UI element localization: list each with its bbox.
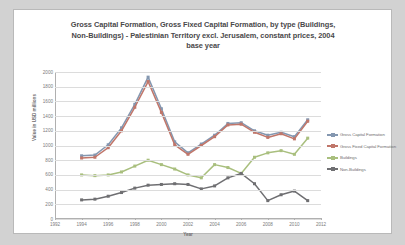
legend-item: Gross Fixed Capital Formation — [327, 141, 397, 153]
x-tick-label: 2004 — [202, 222, 228, 227]
series-marker — [226, 176, 229, 179]
legend-label: Gross Capital Formation — [340, 132, 385, 137]
x-tick-mark — [241, 218, 242, 220]
y-tick-label: 800 — [31, 158, 53, 163]
series-marker — [187, 183, 190, 186]
series-marker — [107, 195, 110, 198]
series-marker — [147, 184, 150, 187]
x-tick-mark — [321, 218, 322, 220]
chart-title: Gross Capital Formation, Gross Fixed Cap… — [38, 20, 368, 52]
series-marker — [187, 153, 190, 156]
chart-legend: Gross Capital FormationGross Fixed Capit… — [327, 129, 397, 175]
x-tick-mark — [294, 218, 295, 220]
x-tick-label: 2000 — [148, 222, 174, 227]
legend-swatch — [327, 157, 338, 159]
series-marker — [80, 198, 83, 201]
series-marker — [120, 170, 123, 173]
legend-item: Buildings — [327, 152, 397, 164]
legend-label: Gross Fixed Capital Formation — [340, 144, 396, 149]
y-tick-label: 2000 — [31, 70, 53, 75]
gridline — [55, 101, 321, 102]
series-marker — [306, 137, 309, 140]
x-tick-label: 1992 — [42, 222, 68, 227]
series-marker — [253, 182, 256, 185]
series-marker — [80, 157, 83, 160]
series-marker — [160, 111, 163, 114]
series-marker — [173, 182, 176, 185]
series-marker — [266, 151, 269, 154]
gridline — [55, 116, 321, 117]
gridline — [55, 131, 321, 132]
y-tick-label: 200 — [31, 202, 53, 207]
y-tick-label: 0 — [31, 217, 53, 222]
x-tick-mark — [188, 218, 189, 220]
legend-item: Gross Capital Formation — [327, 129, 397, 141]
series-marker — [133, 165, 136, 168]
series-marker — [293, 153, 296, 156]
series-marker — [160, 163, 163, 166]
legend-item: Non-Buildings — [327, 164, 397, 176]
gridline — [55, 160, 321, 161]
series-marker — [213, 135, 216, 138]
series-marker — [226, 166, 229, 169]
series-marker — [253, 156, 256, 159]
series-marker — [120, 191, 123, 194]
legend-swatch — [327, 145, 338, 147]
series-marker — [280, 193, 283, 196]
x-tick-label: 1994 — [69, 222, 95, 227]
x-tick-mark — [82, 218, 83, 220]
series-marker — [240, 123, 243, 126]
x-tick-mark — [108, 218, 109, 220]
series-line — [82, 173, 308, 200]
series-line — [82, 82, 308, 158]
x-tick-mark — [215, 218, 216, 220]
series-line — [82, 138, 308, 178]
series-marker — [147, 80, 150, 83]
series-marker — [226, 123, 229, 126]
gridline — [55, 204, 321, 205]
legend-label: Non-Buildings — [340, 167, 366, 172]
series-marker — [306, 199, 309, 202]
x-tick-label: 1996 — [95, 222, 121, 227]
chart-title-line-2: Non-Buildings) - Palestinian Territory e… — [38, 31, 368, 42]
x-tick-mark — [161, 218, 162, 220]
series-marker — [107, 146, 110, 149]
x-tick-label: 2012 — [308, 222, 334, 227]
series-marker — [133, 106, 136, 109]
series-marker — [306, 120, 309, 123]
chart-title-line-3: base year — [38, 41, 368, 52]
x-tick-label: 2010 — [281, 222, 307, 227]
gridline — [55, 87, 321, 88]
series-marker — [93, 198, 96, 201]
legend-label: Buildings — [340, 155, 357, 160]
x-tick-label: 1998 — [122, 222, 148, 227]
series-marker — [200, 176, 203, 179]
series-marker — [147, 76, 150, 79]
legend-swatch — [327, 168, 338, 170]
x-tick-mark — [55, 218, 56, 220]
series-marker — [266, 199, 269, 202]
series-marker — [213, 184, 216, 187]
y-axis-title: Value in USD millions — [32, 78, 37, 158]
x-tick-label: 2006 — [228, 222, 254, 227]
x-tick-mark — [268, 218, 269, 220]
series-marker — [160, 183, 163, 186]
gridline — [55, 72, 321, 73]
plot-region — [55, 72, 321, 219]
x-tick-mark — [135, 218, 136, 220]
series-marker — [280, 149, 283, 152]
gridline — [55, 146, 321, 147]
series-marker — [173, 168, 176, 171]
series-marker — [213, 163, 216, 166]
x-tick-label: 2002 — [175, 222, 201, 227]
chart-area: Gross Capital Formation, Gross Fixed Cap… — [13, 9, 392, 234]
chart-title-line-1: Gross Capital Formation, Gross Fixed Cap… — [38, 20, 368, 31]
series-marker — [293, 137, 296, 140]
series-marker — [266, 136, 269, 139]
series-marker — [280, 132, 283, 135]
gridline — [55, 190, 321, 191]
series-marker — [93, 156, 96, 159]
gridline — [55, 175, 321, 176]
y-tick-label: 600 — [31, 172, 53, 177]
y-tick-label: 400 — [31, 187, 53, 192]
